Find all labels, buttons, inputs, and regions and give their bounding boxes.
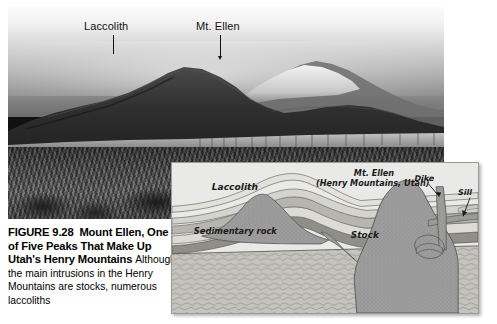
diagram-label-mt-ellen: Mt. Ellen [354, 168, 395, 178]
photo-label-laccolith: Laccolith [84, 20, 128, 32]
photo-label-mt-ellen: Mt. Ellen [196, 20, 240, 32]
diagram-label-sill: Sill [458, 188, 472, 197]
figure-page: Laccolith Mt. Ellen FIGURE 9.28 Mount El… [0, 0, 497, 324]
cross-section-diagram-panel: Laccolith Mt. Ellen (Henry Mountains, Ut… [171, 162, 479, 314]
photo-leader-laccolith [113, 35, 114, 54]
photo-leader-mt-ellen [220, 35, 221, 57]
cross-section-svg: Laccolith Mt. Ellen (Henry Mountains, Ut… [172, 163, 478, 313]
diagram-label-mt-ellen-subtitle: (Henry Mountains, Utah) [316, 178, 429, 188]
figure-caption: FIGURE 9.28 Mount Ellen, One of Five Pea… [8, 226, 176, 307]
diagram-label-dike: Dike [414, 174, 434, 183]
photo-arrowhead-mt-ellen [218, 56, 222, 60]
diagram-label-laccolith: Laccolith [212, 182, 258, 192]
diagram-label-sedimentary-rock: Sedimentary rock [194, 226, 278, 236]
figure-number: FIGURE 9.28 [8, 226, 74, 238]
diagram-label-stock: Stock [351, 230, 380, 240]
